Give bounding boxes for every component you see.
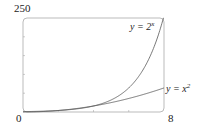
curve-label-exponential-exponent: x [151,20,154,28]
chart-canvas [0,0,202,128]
curve-label-quadratic-exponent: 2 [187,82,191,90]
curve-label-quadratic: y = x2 [166,83,190,94]
curve-label-exponential-text: y = 2 [130,21,151,32]
curve-quadratic [23,88,164,112]
curve-label-quadratic-text: y = x [166,83,187,94]
x-max-label: 8 [168,113,174,124]
y-max-label: 250 [14,3,31,14]
origin-label: 0 [16,113,22,124]
axis-ticks [23,37,129,112]
curve-label-exponential: y = 2x [130,21,154,32]
